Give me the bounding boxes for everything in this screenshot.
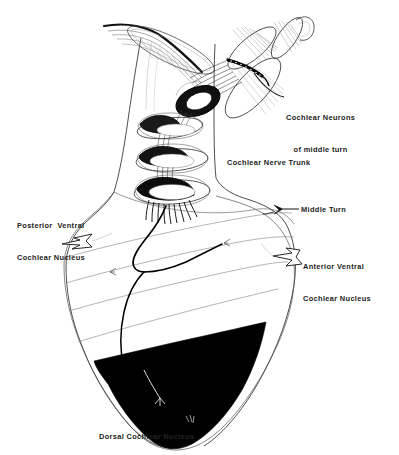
basal-turn-radiating-fibers <box>146 200 197 224</box>
label-cochlear-neurons-line1: Cochlear Neurons <box>286 113 355 124</box>
label-posterior-ventral-line1: Posterior Ventral <box>17 221 85 232</box>
dorsal-cochlear-nucleus-shaded <box>94 322 266 449</box>
label-middle-turn: Middle Turn <box>301 205 346 216</box>
label-cochlear-neurons-line2: of middle turn <box>286 145 355 156</box>
cochlear-turn-4-basal <box>133 175 210 224</box>
label-cochlear-nerve-trunk: Cochlear Nerve Trunk <box>227 158 310 169</box>
anatomical-figure: Cochlear Neurons of middle turn Cochlear… <box>0 0 399 455</box>
label-posterior-ventral-line2: Cochlear Nucleus <box>17 253 85 264</box>
label-anterior-ventral-cochlear-nucleus: Anterior Ventral Cochlear Nucleus <box>303 241 371 325</box>
label-anterior-ventral-line2: Cochlear Nucleus <box>303 294 371 305</box>
label-anterior-ventral-line1: Anterior Ventral <box>303 262 371 273</box>
nucleus-stripe-lines <box>66 213 294 342</box>
cochlear-turns-stack <box>133 79 224 224</box>
label-posterior-ventral-cochlear-nucleus: Posterior Ventral Cochlear Nucleus <box>17 200 85 284</box>
label-dorsal-cochlear-nucleus: Dorsal Cochlear Nucleus <box>99 432 195 443</box>
